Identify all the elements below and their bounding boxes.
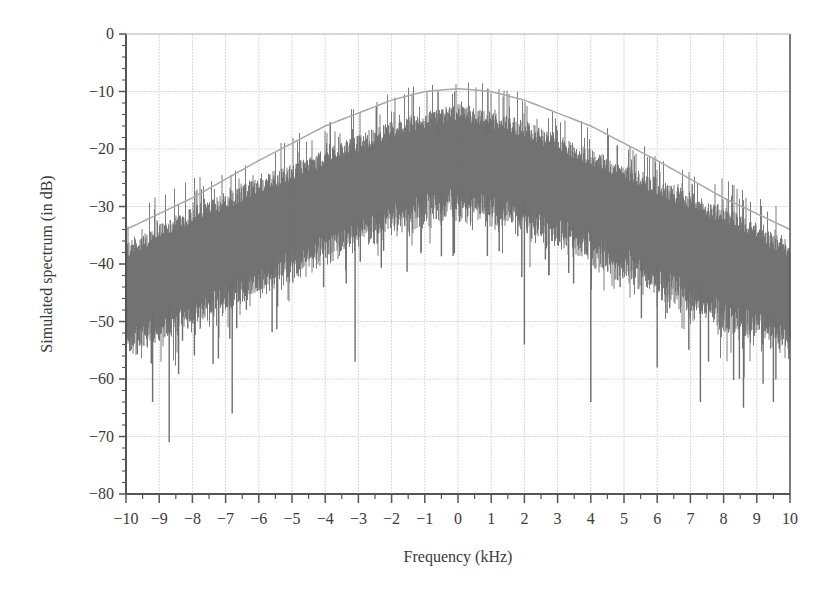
- x-tick-label: −2: [383, 510, 400, 527]
- x-tick-label: 10: [782, 510, 798, 527]
- x-tick-label: 6: [653, 510, 661, 527]
- x-tick-label: 2: [520, 510, 528, 527]
- y-tick-label: −60: [89, 370, 114, 387]
- x-tick-label: −7: [217, 510, 234, 527]
- y-tick-label: −50: [89, 313, 114, 330]
- x-tick-label: −8: [184, 510, 201, 527]
- x-tick-label: 4: [587, 510, 595, 527]
- y-tick-label: −70: [89, 428, 114, 445]
- x-tick-label: 9: [753, 510, 761, 527]
- x-axis-ticks: −10−9−8−7−6−5−4−3−2−1012345678910: [113, 494, 798, 527]
- x-tick-label: 1: [487, 510, 495, 527]
- x-tick-label: −10: [113, 510, 138, 527]
- x-tick-label: 7: [686, 510, 694, 527]
- y-axis-ticks: 0−10−20−30−40−50−60−70−80: [89, 25, 126, 502]
- y-tick-label: 0: [106, 25, 114, 42]
- x-tick-label: 0: [454, 510, 462, 527]
- y-tick-label: −10: [89, 83, 114, 100]
- spectrum-chart: −10−9−8−7−6−5−4−3−2−1012345678910 0−10−2…: [0, 0, 839, 596]
- y-tick-label: −20: [89, 140, 114, 157]
- x-tick-label: 3: [554, 510, 562, 527]
- x-tick-label: 5: [620, 510, 628, 527]
- x-tick-label: −9: [151, 510, 168, 527]
- x-tick-label: −1: [416, 510, 433, 527]
- x-tick-label: −4: [317, 510, 334, 527]
- x-tick-label: −5: [283, 510, 300, 527]
- y-tick-label: −40: [89, 255, 114, 272]
- x-tick-label: 8: [720, 510, 728, 527]
- y-tick-label: −30: [89, 198, 114, 215]
- y-tick-label: −80: [89, 485, 114, 502]
- x-tick-label: −3: [350, 510, 367, 527]
- x-tick-label: −6: [250, 510, 267, 527]
- x-axis-title: Frequency (kHz): [404, 548, 513, 566]
- y-axis-title: Simulated spectrum (in dB): [38, 175, 56, 352]
